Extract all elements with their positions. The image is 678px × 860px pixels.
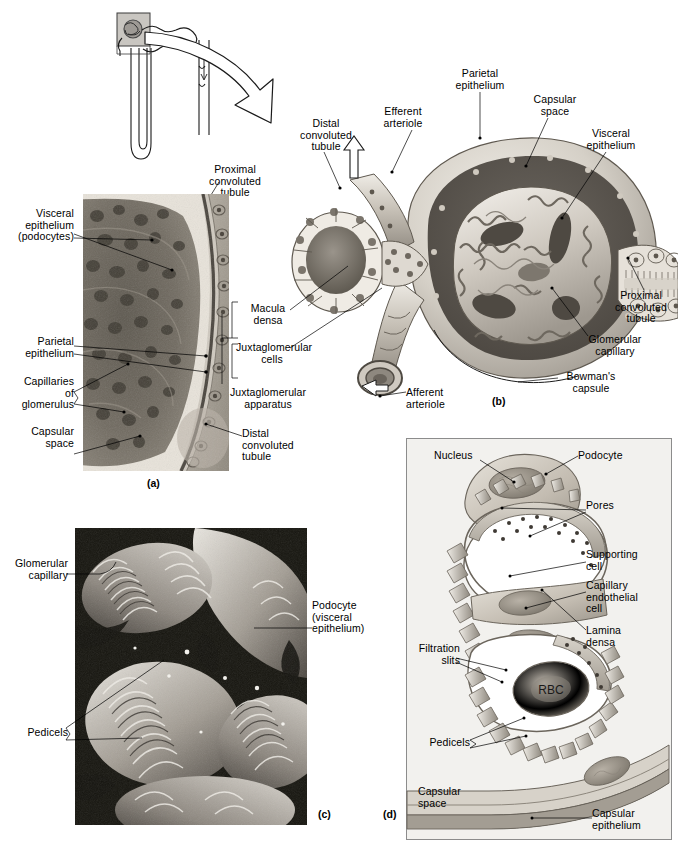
panel-d-leader-pores xyxy=(500,506,590,542)
panel-d-label-pores: Pores xyxy=(586,500,634,512)
panel-a-bracket-juxtaglomerular xyxy=(228,300,264,386)
panel-c-label-podocyte-visceral-epithelium: Podocyte (visceral epithelium) xyxy=(312,600,388,635)
panel-b-label-visceral-epithelium: Visceral epithelium xyxy=(576,128,646,151)
panel-d-id: (d) xyxy=(383,808,396,820)
panel-c-label-pedicels: Pedicels xyxy=(0,727,68,739)
panel-b-leader-visceral xyxy=(558,152,612,224)
panel-d-leader-capsular-epithelium xyxy=(530,812,596,834)
panel-b-label-bowmans-capsule: Bowman's capsule xyxy=(558,371,624,394)
panel-b-leader-pct xyxy=(618,256,654,294)
panel-c-leader-glomerular-capillary xyxy=(66,562,122,588)
panel-d-label-lamina-densa: Lamina densa xyxy=(586,625,648,648)
nephron-overview-diagram xyxy=(95,4,295,179)
panel-d-label-podocyte: Podocyte xyxy=(578,450,640,462)
panel-a-id: (a) xyxy=(147,477,160,489)
panel-b-label-capsular-space: Capsular space xyxy=(524,94,586,117)
panel-d-label-capillary-endothelial-cell: Capillary endothelial cell xyxy=(586,580,662,615)
panel-b-label-distal-convoluted-tubule: Distal convoluted tubule xyxy=(290,118,362,153)
panel-a-label-parietal-epithelium: Parietal epithelium xyxy=(0,336,74,359)
panel-d-label-pedicels: Pedicels xyxy=(408,737,470,749)
panel-b-id: (b) xyxy=(492,395,505,407)
panel-a-leader-capillaries xyxy=(74,370,164,430)
panel-d-label-capsular-epithelium: Capsular epithelium xyxy=(592,808,670,831)
panel-c-leader-podocyte xyxy=(254,622,316,634)
panel-a-leader-dct xyxy=(202,422,250,448)
panel-b-label-proximal-convoluted-tubule: Proximal convoluted tubule xyxy=(606,290,676,325)
panel-b-leader-efferent xyxy=(388,130,424,178)
panel-d-leader-nucleus xyxy=(480,456,522,490)
panel-a-label-capillaries-of-glomerulus: Capillaries of glomerulus xyxy=(0,376,74,411)
panel-c-id: (c) xyxy=(318,808,331,820)
panel-b-leader-glomerular-capillary xyxy=(548,286,594,342)
panel-b-leader-jg-cells xyxy=(290,330,390,370)
panel-d-label-filtration-slits: Filtration slits xyxy=(398,643,460,666)
panel-a-leader-visceral xyxy=(74,222,184,302)
panel-d-leader-pedicels xyxy=(468,722,536,762)
panel-d-label-capsular-space: Capsular space xyxy=(418,786,514,809)
panel-b-leader-bowmans xyxy=(514,368,562,386)
panel-d-leader-podocyte xyxy=(544,452,582,482)
panel-b-leader-capsular-space xyxy=(520,118,554,172)
panel-d-leader-lamina-densa xyxy=(540,586,590,634)
panel-b-label-afferent-arteriole: Afferent arteriole xyxy=(406,387,472,410)
panel-c-leader-pedicels xyxy=(66,660,176,746)
panel-a-label-visceral-epithelium: Visceral epithelium (podocytes) xyxy=(0,208,74,243)
panel-b-leader-afferent xyxy=(378,384,410,402)
panel-a-leader-capsular-space xyxy=(74,432,154,466)
panel-a-label-distal-convoluted-tubule: Distal convoluted tubule xyxy=(242,428,314,463)
panel-b-leader-dct xyxy=(318,152,348,194)
panel-d-label-supporting-cell: Supporting cell xyxy=(586,549,656,572)
panel-d-leader-filtration-slits xyxy=(456,650,512,688)
panel-b-label-parietal-epithelium: Parietal epithelium xyxy=(445,68,515,91)
panel-b-label-efferent-arteriole: Efferent arteriole xyxy=(372,106,434,129)
panel-b-leader-parietal xyxy=(476,92,490,144)
panel-c-label-glomerular-capillary: Glomerular capillary xyxy=(0,558,68,581)
panel-d-leader-supporting-cell xyxy=(508,558,590,582)
panel-a-label-capsular-space: Capsular space xyxy=(0,426,74,449)
panel-d-rbc-text: RBC xyxy=(538,683,564,697)
